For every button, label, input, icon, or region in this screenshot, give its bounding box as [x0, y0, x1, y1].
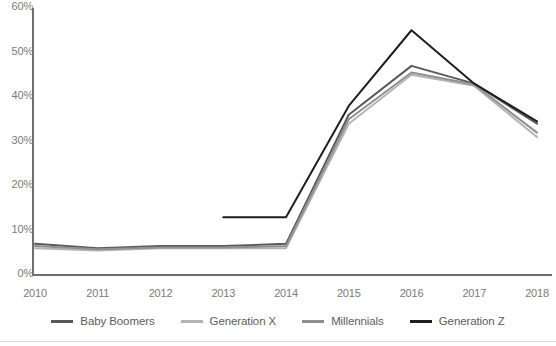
series-line [223, 30, 537, 217]
line-chart: 0%10%20%30%40%50%60% 2010201120122013201… [0, 0, 556, 346]
legend-item[interactable]: Generation Z [410, 315, 505, 327]
legend-label: Baby Boomers [80, 315, 154, 327]
legend-line-icon [302, 320, 324, 323]
legend-line-icon [181, 320, 203, 323]
series-line [35, 73, 537, 250]
legend-line-icon [51, 320, 73, 323]
legend-label: Millennials [331, 315, 384, 327]
bottom-divider [0, 341, 556, 342]
series-lines [0, 0, 556, 346]
chart-legend: Baby BoomersGeneration XMillennialsGener… [0, 310, 556, 332]
legend-line-icon [410, 320, 432, 323]
series-line [35, 75, 537, 251]
legend-item[interactable]: Millennials [302, 315, 384, 327]
legend-label: Generation Z [439, 315, 505, 327]
legend-item[interactable]: Baby Boomers [51, 315, 154, 327]
series-line [35, 66, 537, 248]
legend-label: Generation X [210, 315, 277, 327]
legend-item[interactable]: Generation X [181, 315, 277, 327]
